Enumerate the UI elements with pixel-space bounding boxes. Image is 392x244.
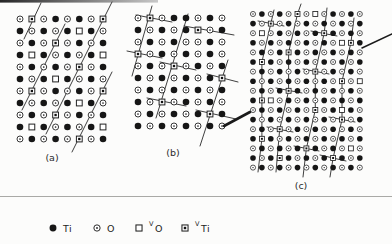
ti-atom-symbol <box>250 21 256 27</box>
vacancy-superscript: V <box>149 220 154 228</box>
ti-atom-symbol <box>100 136 107 143</box>
o-atom-dot <box>297 80 298 81</box>
o-atom-dot <box>288 13 289 14</box>
o-atom-dot <box>43 66 45 68</box>
ti-atom-symbol <box>159 51 166 58</box>
top-rule <box>0 0 158 3</box>
o-vacancy-symbol <box>268 98 273 103</box>
ti-atom-symbol <box>250 136 256 142</box>
o-atom-dot <box>43 138 45 140</box>
ti-atom-symbol <box>64 124 71 131</box>
o-atom-dot <box>173 101 175 103</box>
o-atom-dot <box>306 52 307 53</box>
ti-vacancy-dot <box>297 13 299 15</box>
ti-atom-symbol <box>259 165 265 171</box>
o-atom-dot <box>209 29 211 31</box>
ti-atom-symbol <box>17 100 24 107</box>
o-atom-dot <box>261 23 262 24</box>
legend-symbol-s <box>133 222 145 234</box>
legend-label: O <box>107 223 115 234</box>
ti-atom-symbol <box>321 40 327 46</box>
o-atom-dot <box>90 18 92 20</box>
o-atom-dot <box>332 80 333 81</box>
ti-vacancy-dot <box>161 101 163 103</box>
o-atom-dot <box>90 42 92 44</box>
o-atom-dot <box>315 61 316 62</box>
ti-atom-symbol <box>135 27 142 34</box>
ti-atom-symbol <box>40 76 47 83</box>
shear-plane-line <box>196 110 236 119</box>
ti-atom-symbol <box>268 78 274 84</box>
o-atom-dot <box>149 101 151 103</box>
o-atom-dot <box>315 157 316 158</box>
o-atom-dot <box>19 42 21 44</box>
o-atom-dot <box>209 65 211 67</box>
ti-atom-symbol <box>183 27 190 34</box>
ti-vacancy-dot <box>261 138 263 140</box>
o-atom-dot <box>90 90 92 92</box>
ti-atom-symbol <box>330 165 336 171</box>
o-atom-dot <box>43 18 45 20</box>
ti-atom-symbol <box>304 136 310 142</box>
ti-atom-symbol <box>171 15 178 22</box>
ti-atom-symbol <box>268 117 274 123</box>
ti-atom-symbol <box>76 88 83 95</box>
o-atom-dot <box>279 100 280 101</box>
o-atom-dot <box>173 77 175 79</box>
o-atom-dot <box>252 128 253 129</box>
o-atom-dot <box>19 66 21 68</box>
o-atom-dot <box>323 167 324 168</box>
legend-symbol-v <box>179 222 191 234</box>
o-atom-dot <box>137 89 139 91</box>
legend-item-o: O <box>91 222 115 234</box>
o-atom-dot <box>350 100 351 101</box>
o-atom-dot <box>270 128 271 129</box>
ti-atom-symbol <box>304 98 310 104</box>
o-atom-dot <box>173 29 175 31</box>
o-atom-dot <box>197 77 199 79</box>
o-atom-dot <box>43 42 45 44</box>
ti-atom-symbol <box>171 87 178 94</box>
ti-atom-symbol <box>277 11 283 17</box>
o-atom-dot <box>185 41 187 43</box>
ti-atom-symbol <box>29 136 36 143</box>
ti-atom-symbol <box>64 28 71 35</box>
ti-atom-symbol <box>100 64 107 71</box>
o-atom-dot <box>288 71 289 72</box>
ti-vacancy-dot <box>323 32 325 34</box>
ti-vacancy-dot <box>288 90 290 92</box>
ti-atom-symbol <box>29 64 36 71</box>
o-atom-dot <box>306 128 307 129</box>
ti-atom-symbol <box>171 111 178 118</box>
panel-a: (a) <box>17 2 112 163</box>
ti-atom-symbol <box>219 63 226 70</box>
ti-atom-symbol <box>339 21 345 27</box>
ti-atom-symbol <box>339 98 345 104</box>
ti-atom-symbol <box>286 155 292 161</box>
o-atom-dot <box>332 138 333 139</box>
ti-atom-symbol <box>159 123 166 130</box>
ti-atom-symbol <box>286 98 292 104</box>
ti-atom-symbol <box>17 52 24 59</box>
o-atom-dot <box>102 30 104 32</box>
o-atom-dot <box>221 101 223 103</box>
o-atom-dot <box>341 128 342 129</box>
o-atom-dot <box>288 128 289 129</box>
o-atom-dot <box>197 17 199 19</box>
o-atom-dot <box>359 71 360 72</box>
o-atom-dot <box>332 100 333 101</box>
o-atom-dot <box>315 23 316 24</box>
o-atom-dot <box>297 100 298 101</box>
ti-atom-symbol <box>286 136 292 142</box>
ti-atom-symbol <box>207 99 214 106</box>
o-atom-dot <box>31 78 33 80</box>
o-atom-dot <box>137 41 139 43</box>
ti-atom-symbol <box>330 69 336 75</box>
o-vacancy-symbol <box>136 225 142 231</box>
ti-atom-symbol <box>29 40 36 47</box>
ti-atom-symbol <box>147 39 154 46</box>
ti-atom-symbol <box>64 100 71 107</box>
o-atom-dot <box>197 125 199 127</box>
panel-label-a: (a) <box>45 152 58 163</box>
o-atom-dot <box>78 126 80 128</box>
